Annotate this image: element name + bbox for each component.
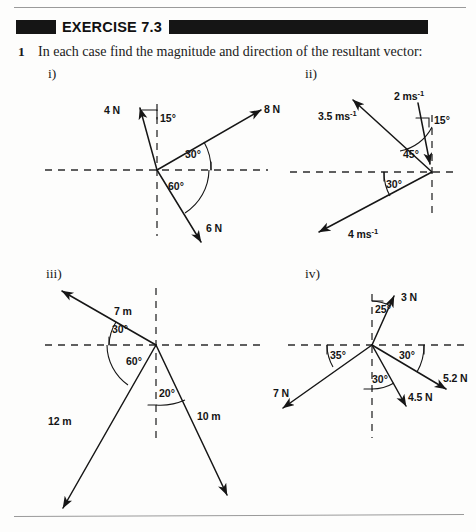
diagram-iii — [45, 288, 262, 508]
label-3.5ms: 3.5 ms-1 — [318, 110, 357, 122]
vector-diagrams-canvas — [0, 0, 476, 532]
arrow-12m — [63, 345, 156, 508]
angle-label-60-i: 60° — [168, 180, 184, 192]
label-4N: 4 N — [104, 104, 120, 116]
label-4ms: 4 ms-1 — [348, 228, 378, 240]
angle-arc-60-i — [185, 170, 209, 213]
angle-label-30-i: 30° — [185, 148, 201, 160]
label-2ms-text: 2 ms — [394, 90, 418, 102]
textbook-page: EXERCISE 7.3 1 In each case find the mag… — [0, 0, 476, 532]
label-4ms-text: 4 ms — [348, 228, 372, 240]
angle-arc-30-i — [204, 142, 211, 170]
label-4.5N: 4.5 N — [408, 391, 433, 403]
label-12m: 12 m — [48, 415, 72, 427]
diagram-iv — [283, 294, 470, 438]
angle-label-15-ii: 15° — [434, 114, 450, 126]
label-3.5ms-text: 3.5 ms — [318, 110, 350, 122]
angle-arc-20-iii — [156, 400, 185, 405]
angle-label-20-iii: 20° — [159, 387, 175, 399]
arrow-7N — [283, 345, 372, 408]
angle-label-25-iv: 25° — [375, 303, 391, 315]
label-8N: 8 N — [264, 103, 280, 115]
angle-label-45-ii: 45° — [403, 148, 419, 160]
angle-arc-30r-iv — [417, 345, 424, 372]
label-4ms-exp: -1 — [372, 227, 378, 236]
angle-label-35-iv: 35° — [330, 349, 346, 361]
label-2ms-exp: -1 — [418, 89, 424, 98]
angle-bracket-15-i — [142, 110, 157, 119]
angle-label-30-iii: 30° — [112, 323, 128, 335]
angle-label-30-ii: 30° — [386, 178, 402, 190]
angle-label-15-i: 15° — [160, 112, 176, 124]
label-7N: 7 N — [273, 387, 289, 399]
label-10m: 10 m — [197, 410, 221, 422]
arrow-4ms — [319, 172, 432, 232]
angle-label-30d-iv: 30° — [372, 373, 388, 385]
label-5.2N: 5.2 N — [443, 372, 468, 384]
label-3N: 3 N — [401, 291, 417, 303]
angle-arc-60-iii — [107, 345, 128, 385]
label-2ms: 2 ms-1 — [394, 90, 424, 102]
label-6N: 6 N — [206, 222, 222, 234]
diagram-ii — [290, 100, 455, 232]
angle-label-60-iii: 60° — [126, 355, 142, 367]
label-7m: 7 m — [114, 305, 132, 317]
label-3.5ms-exp: -1 — [350, 109, 356, 118]
angle-label-30r-iv: 30° — [399, 349, 415, 361]
diagram-i — [45, 104, 268, 242]
arrow-4N — [140, 108, 157, 170]
